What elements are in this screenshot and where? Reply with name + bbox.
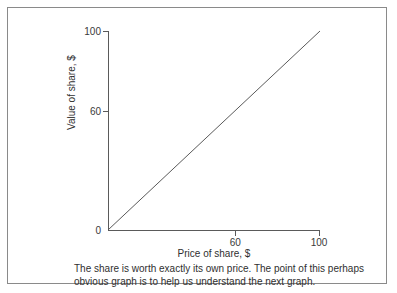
- y-tick-label-60: 60: [90, 105, 101, 116]
- figure-panel: 100 60 0 60 100 Value of share, $ Price …: [0, 0, 397, 293]
- figure-frame: 100 60 0 60 100 Value of share, $ Price …: [7, 7, 387, 284]
- x-axis-line: [108, 230, 320, 231]
- x-tick-label-100: 100: [311, 237, 328, 248]
- caption-line-2: obvious graph is to help us understand t…: [74, 275, 374, 288]
- x-tick-100: [319, 231, 320, 236]
- figure-caption: The share is worth exactly its own price…: [74, 262, 374, 288]
- x-axis-title: Price of share, $: [108, 248, 320, 259]
- series-line-value-equals-price: [108, 31, 320, 230]
- x-tick-label-60: 60: [230, 237, 241, 248]
- y-axis-title: Value of share, $: [66, 55, 77, 130]
- plot-area: 100 60 0 60 100: [108, 31, 320, 230]
- y-tick-label-0: 0: [95, 225, 101, 236]
- caption-line-1: The share is worth exactly its own price…: [74, 262, 374, 275]
- x-tick-60: [235, 231, 236, 236]
- y-tick-label-100: 100: [84, 26, 101, 37]
